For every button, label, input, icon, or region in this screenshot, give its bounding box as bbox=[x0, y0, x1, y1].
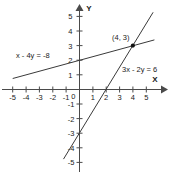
x-tick-label-2: 2 bbox=[104, 93, 108, 102]
x-axis-tick-labels: -5 -4 -3 -2 -1 1 2 3 4 5 bbox=[9, 93, 148, 102]
y-tick-label-neg1: -1 bbox=[68, 100, 75, 109]
x-tick-label-3: 3 bbox=[118, 93, 122, 102]
y-tick-label-neg2: -2 bbox=[68, 115, 75, 124]
x-tick-label-5: 5 bbox=[144, 93, 148, 102]
x-tick-label-4: 4 bbox=[131, 93, 135, 102]
y-tick-label-2: 2 bbox=[68, 56, 72, 65]
y-axis-label: Y bbox=[86, 4, 92, 13]
intersection-point-label: (4, 3) bbox=[112, 33, 130, 42]
x-tick-label-1: 1 bbox=[91, 93, 95, 102]
intersection-point-marker bbox=[131, 44, 135, 48]
y-tick-label-neg4: -4 bbox=[68, 144, 75, 153]
y-tick-label-1: 1 bbox=[68, 71, 72, 80]
x-tick-label-neg5: -5 bbox=[9, 93, 16, 102]
origin-label: 0 bbox=[71, 92, 75, 101]
y-tick-label-4: 4 bbox=[68, 27, 72, 36]
y-axis-arrow-icon bbox=[76, 4, 84, 11]
y-tick-label-5: 5 bbox=[68, 12, 72, 21]
equation-label-line1: x - 4y = -8 bbox=[16, 51, 50, 60]
y-tick-label-neg5: -5 bbox=[68, 158, 75, 167]
x-tick-label-neg2: -2 bbox=[49, 93, 56, 102]
y-tick-label-neg3: -3 bbox=[68, 129, 75, 138]
x-axis-label: X bbox=[152, 75, 158, 84]
line-3x-minus-2y bbox=[64, 12, 154, 159]
x-axis-arrow-icon bbox=[161, 86, 168, 94]
y-tick-label-3: 3 bbox=[68, 42, 72, 51]
x-tick-label-neg4: -4 bbox=[23, 93, 30, 102]
coordinate-graph-figure: -5 -4 -3 -2 -1 1 2 3 4 5 5 4 3 2 1 -1 -2… bbox=[0, 0, 169, 175]
x-tick-label-neg3: -3 bbox=[36, 93, 43, 102]
graph-canvas: -5 -4 -3 -2 -1 1 2 3 4 5 5 4 3 2 1 -1 -2… bbox=[0, 0, 169, 175]
equation-label-line2: 3x - 2y = 6 bbox=[122, 65, 157, 74]
